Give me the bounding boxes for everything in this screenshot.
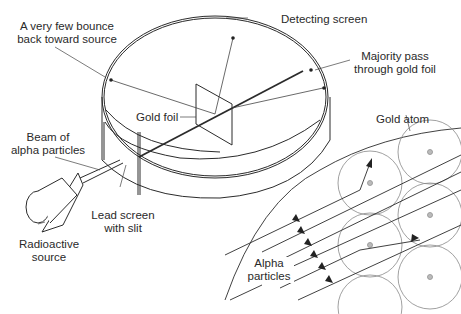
label-line: with slit	[88, 222, 158, 235]
label-gold-foil: Gold foil	[136, 111, 178, 124]
label-line: Beam of	[8, 131, 88, 144]
label-line: back toward source	[12, 33, 122, 46]
label-line: through gold foil	[350, 63, 440, 76]
label-beam: Beam of alpha particles	[8, 131, 88, 157]
experiment-diagram	[0, 0, 461, 314]
gold-foil	[196, 84, 232, 145]
arrowheads	[292, 158, 419, 283]
label-alpha-particles: Alpha particles	[244, 257, 294, 283]
label-radioactive-source: Radioactive source	[14, 238, 84, 264]
label-line: Alpha	[244, 257, 294, 270]
label-line: source	[14, 251, 84, 264]
label-bounce-back: A very few bounce back toward source	[12, 20, 122, 46]
label-majority-pass: Majority pass through gold foil	[350, 50, 440, 76]
label-detecting-screen: Detecting screen	[281, 13, 367, 26]
label-line: Majority pass	[350, 50, 440, 63]
label-line: alpha particles	[8, 144, 88, 157]
label-lead-screen: Lead screen with slit	[88, 209, 158, 235]
label-gold-atom: Gold atom	[376, 113, 429, 126]
label-line: particles	[244, 270, 294, 283]
label-line: A very few bounce	[12, 20, 122, 33]
magnified-atoms	[225, 120, 461, 314]
label-line: Lead screen	[88, 209, 158, 222]
label-line: Radioactive	[14, 238, 84, 251]
